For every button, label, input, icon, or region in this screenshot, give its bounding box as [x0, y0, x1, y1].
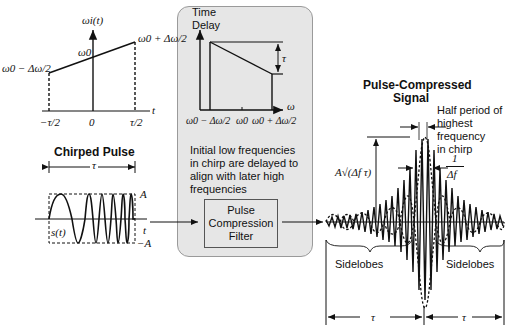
time-delay-plot	[200, 30, 283, 110]
half-period-note-1: Half period of	[437, 104, 502, 117]
chirp-amp-neg: −A	[137, 237, 151, 250]
span-right-tau: τ	[462, 311, 466, 324]
mainlobe-width-den: Δf	[447, 168, 457, 181]
compressed-title-2: Signal	[393, 92, 429, 105]
mainlobe-width-fraction-bar	[446, 166, 464, 167]
delay-tau-label: τ	[282, 52, 286, 65]
pulse-compression-filter-block: Pulse Compression Filter	[204, 199, 278, 248]
chirp-width-label: τ	[90, 159, 98, 172]
delay-axis-label-1: Time	[192, 6, 216, 19]
freq-mid-label: ω0	[78, 46, 91, 59]
freq-time-axis-label: t	[152, 104, 155, 117]
chirp-time-axis-label: t	[143, 224, 146, 237]
delay-tick-low: ω0 − Δω/2	[186, 114, 230, 127]
filter-label-1: Pulse	[209, 204, 274, 217]
span-left-tau: τ	[371, 311, 375, 324]
filter-label-2: Compression	[209, 217, 274, 230]
sidelobes-left-label: Sidelobes	[335, 258, 383, 271]
chirp-signal-label: s(t)	[51, 226, 66, 239]
sidelobes-right-label: Sidelobes	[446, 258, 494, 271]
delay-tick-mid: ω0	[236, 114, 248, 127]
freq-low-label: ω0 − Δω/2	[2, 62, 51, 75]
half-period-note-2: highest	[437, 117, 472, 130]
half-period-note-3: frequency	[437, 130, 485, 143]
delay-caption: Initial low frequencies in chirp are del…	[190, 144, 306, 196]
mainlobe-width-num: 1	[452, 152, 458, 165]
delay-tick-high: ω0 + Δω/2	[252, 114, 296, 127]
freq-axis-label: ωi(t)	[82, 14, 103, 27]
freq-tick-pos: τ/2	[130, 116, 143, 129]
freq-tick-neg: −τ/2	[40, 116, 60, 129]
freq-high-label: ω0 + Δω/2	[138, 32, 187, 45]
freq-tick-zero: 0	[89, 116, 95, 129]
omega-axis-label: ω	[287, 100, 295, 113]
delay-axis-label-2: Delay	[192, 19, 220, 32]
filter-label-3: Filter	[209, 230, 274, 243]
compressed-signal-plot	[326, 122, 504, 325]
chirp-amp-pos: A	[140, 188, 147, 201]
instantaneous-frequency-plot	[42, 30, 150, 111]
peak-amplitude-label: A√(Δf τ)	[335, 166, 371, 179]
chirped-pulse-title: Chirped Pulse	[54, 146, 135, 159]
